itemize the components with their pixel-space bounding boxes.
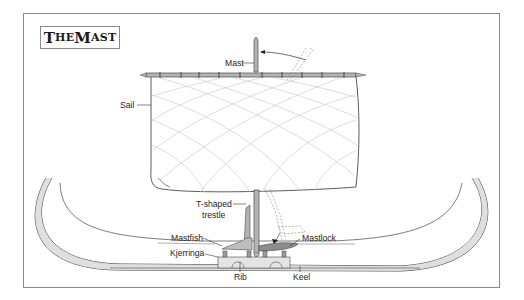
yard xyxy=(140,72,366,78)
label-keel: Keel xyxy=(293,272,310,282)
mastfish xyxy=(222,238,252,250)
diagram-title: THE MAST xyxy=(40,26,120,49)
diagram-canvas: Mast Sail T-shaped trestle Mastfish Mast… xyxy=(0,0,524,300)
label-mast: Mast xyxy=(225,58,244,68)
title-rest-2: AST xyxy=(91,31,116,44)
label-sail: Sail xyxy=(120,100,134,110)
title-cap-1: T xyxy=(44,29,55,47)
mastlock xyxy=(259,226,305,251)
title-cap-2: M xyxy=(74,29,91,47)
label-trestle: trestle xyxy=(202,210,226,220)
label-mastfish: Mastfish xyxy=(171,233,203,243)
label-kjerringa: Kjerringa xyxy=(170,248,205,258)
title-rest-1: HE xyxy=(55,31,74,44)
label-t-shaped: T-shaped xyxy=(196,199,232,209)
sail xyxy=(151,76,359,192)
label-mastlock: Mastlock xyxy=(302,233,337,243)
label-rib: Rib xyxy=(234,272,247,282)
